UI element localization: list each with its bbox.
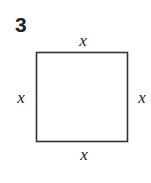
label-bottom: x [79,145,88,164]
label-right: x [137,88,146,107]
label-left: x [16,88,25,107]
square-figure: x x x x [0,0,151,183]
square [37,53,128,142]
label-top: x [78,31,87,50]
